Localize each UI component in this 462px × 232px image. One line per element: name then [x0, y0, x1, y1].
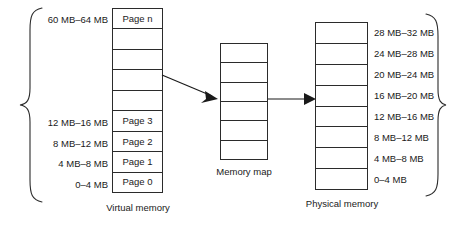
virtual-memory-cell [113, 91, 162, 111]
physical-memory-range-label: 16 MB–20 MB [374, 91, 434, 101]
virtual-memory-column: Page n Page 3 Page 2 Page 1 Page 0 [112, 8, 163, 193]
physical-memory-cell [316, 65, 367, 86]
physical-memory-cell [316, 44, 367, 65]
memory-map-cell [221, 44, 267, 63]
physical-memory-brace-icon [424, 12, 448, 198]
physical-memory-cell [316, 107, 367, 128]
virtual-memory-cell: Page 2 [113, 132, 162, 152]
virtual-memory-caption: Virtual memory [96, 203, 180, 213]
memory-mapping-diagram: Page n Page 3 Page 2 Page 1 Page 0 60 MB… [0, 0, 462, 232]
virtual-memory-range-label: 4 MB–8 MB [58, 159, 108, 169]
physical-memory-range-label: 24 MB–28 MB [374, 49, 434, 59]
physical-memory-range-label: 12 MB–16 MB [374, 112, 434, 122]
memory-map-cell [221, 83, 267, 102]
physical-memory-cell [316, 169, 367, 189]
physical-memory-range-label: 8 MB–12 MB [374, 133, 429, 143]
memory-map-cell [221, 102, 267, 121]
physical-memory-column [315, 22, 368, 190]
map-to-physical-arrow-icon [266, 90, 319, 110]
virtual-memory-range-label: 12 MB–16 MB [48, 118, 108, 128]
virtual-to-map-arrow-icon [160, 70, 224, 106]
memory-map-cell [221, 63, 267, 82]
physical-memory-range-label: 0–4 MB [374, 175, 407, 185]
physical-memory-cell [316, 148, 367, 169]
virtual-memory-range-label: 60 MB–64 MB [48, 15, 108, 25]
virtual-memory-cell: Page 1 [113, 152, 162, 172]
physical-memory-caption: Physical memory [296, 199, 388, 209]
physical-memory-range-label: 4 MB–8 MB [374, 154, 424, 164]
virtual-memory-cell: Page 0 [113, 173, 162, 192]
virtual-memory-cell [113, 50, 162, 70]
virtual-memory-cell: Page 3 [113, 111, 162, 131]
virtual-memory-cell [113, 70, 162, 90]
physical-memory-cell [316, 23, 367, 44]
virtual-memory-cell: Page n [113, 9, 162, 29]
virtual-memory-cell [113, 29, 162, 49]
virtual-memory-brace-icon [18, 6, 44, 204]
physical-memory-cell [316, 127, 367, 148]
memory-map-column [220, 43, 268, 160]
physical-memory-range-label: 20 MB–24 MB [374, 70, 434, 80]
memory-map-cell [221, 121, 267, 140]
virtual-memory-range-label: 8 MB–12 MB [53, 139, 108, 149]
physical-memory-cell [316, 86, 367, 107]
virtual-memory-range-label: 0–4 MB [75, 180, 108, 190]
physical-memory-range-label: 28 MB–32 MB [374, 28, 434, 38]
memory-map-cell [221, 141, 267, 159]
memory-map-caption: Memory map [203, 167, 285, 177]
